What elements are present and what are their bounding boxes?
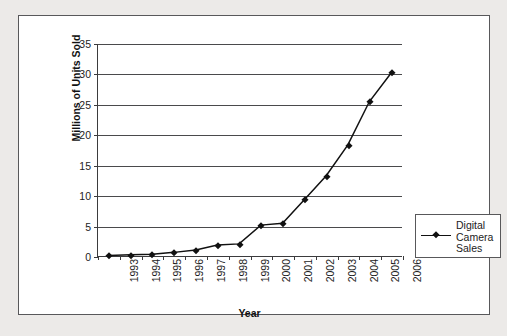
x-axis-title: Year <box>97 307 402 319</box>
x-tick-label: 1997 <box>215 259 227 299</box>
x-axis-tick-labels: 1993199419951996199719981999200020012002… <box>97 259 402 303</box>
x-tick-label: 1995 <box>171 259 183 299</box>
x-tick-label: 1996 <box>193 259 205 299</box>
x-tick-label: 2004 <box>368 259 380 299</box>
y-axis-tick-labels: 05101520253035 <box>63 44 91 257</box>
x-tick-label: 2000 <box>280 259 292 299</box>
y-tick-label: 15 <box>65 161 91 171</box>
chart-frame: Millions of Units Sold 05101520253035 19… <box>18 15 490 315</box>
chart-page: Millions of Units Sold 05101520253035 19… <box>0 0 507 336</box>
x-tick-label: 1994 <box>150 259 162 299</box>
x-tick-label: 2006 <box>411 259 423 299</box>
x-tick-label: 2003 <box>346 259 358 299</box>
data-series-line <box>98 44 402 256</box>
x-tick-label: 1993 <box>128 259 140 299</box>
y-tick-label: 30 <box>65 69 91 79</box>
y-tick-label: 5 <box>65 222 91 232</box>
y-tick-label: 25 <box>65 100 91 110</box>
y-tick-label: 35 <box>65 39 91 49</box>
x-tick-label: 2002 <box>324 259 336 299</box>
legend-entry-label: DigitalCameraSales <box>456 220 500 255</box>
y-tick-label: 0 <box>65 252 91 262</box>
legend-label-line: Digital <box>456 220 500 232</box>
x-tick-label: 1999 <box>259 259 271 299</box>
legend-label-line: Sales <box>456 243 500 255</box>
x-tick-label: 2001 <box>302 259 314 299</box>
x-tick-label: 1998 <box>237 259 249 299</box>
y-tick-label: 20 <box>65 130 91 140</box>
x-tick-mark <box>403 256 404 260</box>
y-tick-label: 10 <box>65 191 91 201</box>
legend[interactable]: DigitalCameraSales <box>415 214 501 258</box>
x-tick-label: 2005 <box>389 259 401 299</box>
legend-marker-icon <box>421 234 451 236</box>
plot-area <box>97 44 402 257</box>
